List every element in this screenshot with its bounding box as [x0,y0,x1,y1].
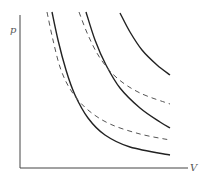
isotherm-curve-solid-3 [120,13,170,75]
curves [47,12,170,155]
y-axis-label: p [10,24,17,35]
dashed-curve-dashed-1 [47,12,170,140]
pv-diagram: p V [0,0,210,179]
isotherm-curve-solid-1 [52,12,170,155]
axes: p V [10,15,199,173]
x-axis-label: V [190,162,199,173]
dashed-curve-dashed-2 [79,12,170,104]
